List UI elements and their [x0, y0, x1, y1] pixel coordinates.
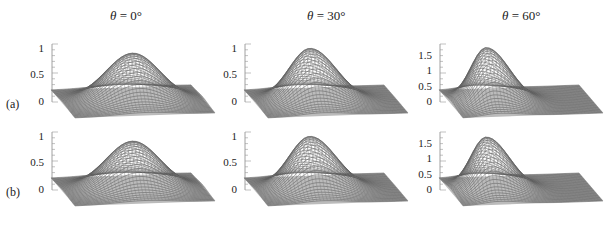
z-tick-label: 0 — [207, 95, 237, 107]
z-tick-label: 1.5 — [402, 49, 432, 61]
z-tick-label: 0.5 — [14, 156, 44, 168]
z-tick-label: 1 — [14, 130, 44, 142]
z-tick-label: 0 — [14, 183, 44, 195]
z-tick-label: 0 — [207, 183, 237, 195]
surface-plot — [241, 22, 411, 122]
z-tick-label: 0 — [14, 95, 44, 107]
z-tick-label: 0.5 — [207, 156, 237, 168]
z-tick-label: 1 — [207, 130, 237, 142]
z-tick-label: 0.5 — [207, 68, 237, 80]
surface-plot — [241, 110, 411, 210]
z-tick-label: 1 — [402, 152, 432, 164]
z-tick-label: 1 — [14, 42, 44, 54]
surface-plot — [436, 110, 604, 210]
z-tick-label: 0.5 — [14, 68, 44, 80]
z-tick-label: 1 — [207, 42, 237, 54]
z-tick-label: 0.5 — [402, 80, 432, 92]
z-tick-label: 0.5 — [402, 168, 432, 180]
surface-plot — [48, 22, 218, 122]
surface-plot — [48, 110, 218, 210]
z-tick-label: 1.5 — [402, 137, 432, 149]
z-tick-label: 0 — [402, 183, 432, 195]
z-tick-label: 1 — [402, 64, 432, 76]
surface-plot — [436, 22, 604, 122]
z-tick-label: 0 — [402, 95, 432, 107]
